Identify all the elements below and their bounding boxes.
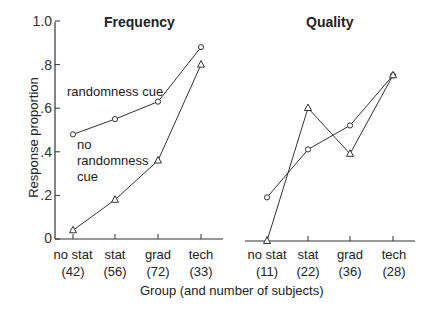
- circle-marker-icon: [264, 195, 269, 200]
- circle-marker-icon: [155, 99, 160, 104]
- y-tick-0.6: .6: [22, 100, 52, 116]
- triangle-marker-icon: [198, 61, 205, 68]
- right-chart-title: Quality: [306, 14, 353, 30]
- triangle-marker-icon: [112, 196, 119, 203]
- left-x-cat-tech: tech(33): [176, 246, 226, 280]
- circle-marker-icon: [347, 123, 352, 128]
- y-tick-0.8: .8: [22, 57, 52, 73]
- right-x-cat-grad: grad(36): [325, 246, 375, 280]
- cat-label: grad: [325, 246, 375, 263]
- y-tick-1.0: 1.0: [22, 13, 52, 29]
- circle-marker-icon: [70, 132, 75, 137]
- x-axis-label: Group (and number of subjects): [140, 283, 324, 298]
- left-chart-title: Frequency: [104, 14, 175, 30]
- annotation-line-2: randomness: [77, 153, 149, 169]
- cat-n: (28): [369, 263, 419, 280]
- circle-marker-icon: [198, 45, 203, 50]
- y-axis-label: Response proportion: [26, 73, 41, 203]
- circle-marker-icon: [112, 117, 117, 122]
- cat-label: tech: [176, 246, 226, 263]
- cat-n: (33): [176, 263, 226, 280]
- triangle-marker-icon: [155, 157, 162, 164]
- y-tick-0.2: .2: [22, 187, 52, 203]
- circle-marker-icon: [305, 147, 310, 152]
- annotation-no-randomness-cue: no randomness cue: [77, 137, 149, 185]
- cat-label: tech: [369, 246, 419, 263]
- y-tick-0.4: .4: [22, 144, 52, 160]
- cat-n: (36): [325, 263, 375, 280]
- triangle-marker-icon: [264, 237, 271, 244]
- y-tick-0: 0: [22, 230, 52, 246]
- right-x-cat-tech: tech(28): [369, 246, 419, 280]
- annotation-line-1: no: [77, 137, 149, 153]
- triangle-marker-icon: [70, 226, 77, 233]
- annotation-line-3: cue: [77, 169, 149, 185]
- series-line: [267, 75, 393, 241]
- chart-figure: Response proportion 1.0 .8 .6 .4 .2 0 Fr…: [0, 0, 427, 310]
- triangle-marker-icon: [305, 104, 312, 111]
- annotation-randomness-cue: randomness cue: [67, 84, 163, 99]
